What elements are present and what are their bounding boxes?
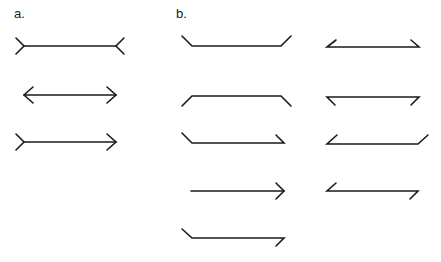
b-col1-row4-figure [191, 183, 284, 199]
b-col2-row3-figure [327, 135, 428, 144]
muller-lyer-mixed-figure [16, 134, 116, 150]
line-segment [327, 183, 418, 199]
panel-b [182, 36, 428, 246]
b-col1-row5-figure [182, 229, 284, 246]
b-col1-row1-figure [182, 36, 291, 46]
muller-lyer-arrows-in-figure [24, 87, 116, 103]
b-col1-row3-figure [182, 133, 284, 143]
illusion-diagram [0, 0, 441, 262]
b-col2-row4-figure [327, 183, 418, 199]
line-segment [182, 133, 284, 143]
line-segment [116, 38, 124, 54]
line-segment [182, 36, 291, 46]
b-col2-row2-figure [327, 97, 419, 105]
line-segment [16, 134, 24, 150]
line-segment [182, 229, 284, 246]
line-segment [327, 40, 419, 47]
line-segment [16, 38, 24, 54]
line-segment [182, 96, 291, 106]
line-segment [327, 135, 428, 144]
b-col2-row1-figure [327, 40, 419, 47]
b-col1-row2-figure [182, 96, 291, 106]
panel-a [16, 38, 124, 150]
muller-lyer-fins-out-figure [16, 38, 124, 54]
line-segment [327, 97, 419, 105]
